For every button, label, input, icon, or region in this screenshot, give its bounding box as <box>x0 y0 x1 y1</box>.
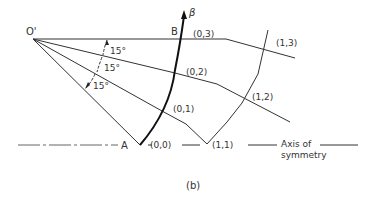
label-o-prime: O' <box>26 26 37 37</box>
label-a: A <box>121 140 128 151</box>
label-symmetry: symmetry <box>281 150 327 160</box>
figure-caption: (b) <box>186 180 200 191</box>
beta-arrowhead-icon <box>181 10 187 19</box>
label-node-0-1: (0,1) <box>173 104 194 114</box>
label-node-0-0: (0,0) <box>150 140 171 150</box>
label-axis-of: Axis of <box>281 139 312 149</box>
label-b: B <box>171 26 178 37</box>
ray-30deg <box>33 39 162 111</box>
angle-arrow-3-icon <box>85 82 90 89</box>
label-node-0-2: (0,2) <box>186 67 207 77</box>
label-angle-3: 15° <box>93 81 109 91</box>
label-beta: β <box>188 7 196 18</box>
label-node-1-3: (1,3) <box>276 38 297 48</box>
label-angle-1: 15° <box>110 46 126 56</box>
angle-arc-2 <box>97 57 102 72</box>
characteristic-network-diagram: O' B β A (0,3) (0,2) (0,1) (0,0) (1,1) (… <box>0 0 372 201</box>
label-node-1-1: (1,1) <box>212 140 233 150</box>
label-node-0-3: (0,3) <box>193 29 214 39</box>
label-node-1-2: (1,2) <box>252 92 273 102</box>
char-line-1-family <box>207 30 268 144</box>
label-angle-2: 15° <box>104 63 120 73</box>
